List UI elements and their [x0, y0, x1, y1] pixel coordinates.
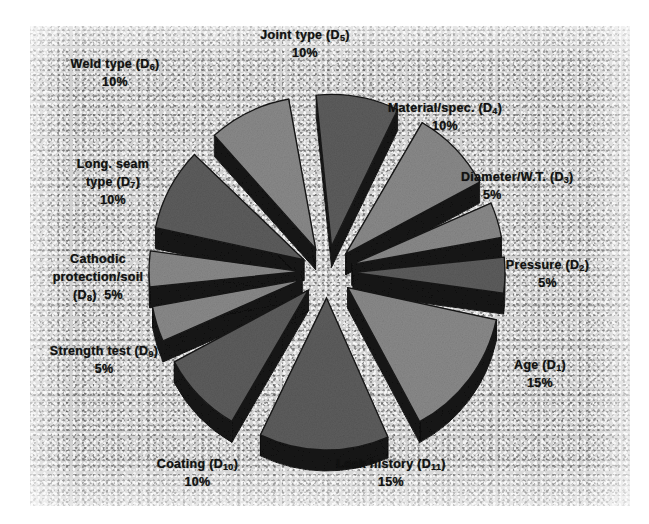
slice-label-percent: 5%	[461, 186, 646, 204]
slice-label-line1: Cathodic	[70, 252, 126, 266]
slice-label-line2: type (D7)	[86, 175, 140, 189]
slice-label-percent: 10%	[30, 73, 200, 91]
slice-label-text: Weld type (D6)	[71, 57, 160, 71]
slice-label-cathodic-protection: Cathodic protection/soil (D8) 5%	[18, 250, 178, 304]
slice-label-diameter-wt: Diameter/W.T. (D3) 5%	[461, 168, 646, 204]
slice-label-percent: 10%	[38, 191, 188, 209]
slice-label-percent: 5%	[104, 288, 123, 302]
slice-label-text: Strength test (D9)	[50, 344, 158, 358]
slice-label-strength-test: Strength test (D9) 5%	[14, 342, 194, 378]
slice-label-weld-type: Weld type (D6) 10%	[30, 55, 200, 91]
slice-label-percent: 5%	[14, 360, 194, 378]
slice-label-pressure: Pressure (D2) 5%	[460, 256, 635, 292]
slice-label-percent: 5%	[460, 274, 635, 292]
slice-label-text: Joint type (D5)	[260, 28, 349, 42]
slice-label-text: Pressure (D2)	[506, 258, 589, 272]
slice-label-text: Material/spec. (D4)	[388, 101, 502, 115]
slice-label-joint-type: Joint type (D5) 10%	[215, 26, 395, 62]
slice-label-text: Age (D1)	[514, 358, 566, 372]
slice-label-line2: protection/soil	[53, 270, 144, 284]
slice-label-long-seam-type: Long. seam type (D7) 10%	[38, 155, 188, 209]
slice-label-percent: 15%	[470, 374, 610, 392]
slice-label-material-spec: Material/spec. (D4) 10%	[350, 99, 540, 135]
slice-label-line3: (D8) 5%	[73, 288, 123, 302]
slice-label-line1: Long. seam	[77, 157, 149, 171]
slice-label-text: Diameter/W.T. (D3)	[461, 170, 574, 184]
slice-label-leak-history: Leak history (D11) 15%	[296, 455, 486, 491]
slice-label-coating: Coating (D10) 10%	[110, 455, 285, 491]
slice-label-percent: 15%	[296, 473, 486, 491]
slice-label-percent: 10%	[215, 44, 395, 62]
figure-canvas: Joint type (D5) 10% Weld type (D6) 10% M…	[0, 0, 649, 524]
slice-label-percent: 10%	[110, 473, 285, 491]
slice-label-percent: 10%	[350, 117, 540, 135]
slice-label-text: Leak history (D11)	[336, 457, 445, 471]
slice-label-text: Coating (D10)	[157, 457, 238, 471]
slice-label-age: Age (D1) 15%	[470, 356, 610, 392]
